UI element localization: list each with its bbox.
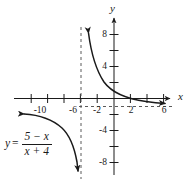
equation-denominator: x + 4 [22,144,52,158]
x-tick-label--2: -2 [89,106,105,116]
y-tick-label--4: -4 [93,126,107,136]
equation-equals: = [12,138,19,150]
x-tick-label--6: -6 [65,106,81,116]
x-tick-label--10: -10 [31,106,49,116]
y-axis [110,18,119,175]
y-axis-label: y [110,3,115,14]
equation-lhs: y [5,138,10,150]
equation-fraction: 5 − x x + 4 [22,131,52,157]
equation-numerator: 5 − x [22,131,52,144]
x-axis-label: x [178,91,183,102]
x-tick-label-6: 6 [158,106,170,116]
graph-figure: x y -10 -6 -2 2 6 8 4 -4 -8 y = 5 − x x … [0,0,188,180]
equation-label: y = 5 − x x + 4 [5,131,52,157]
y-tick-label-8: 8 [96,30,107,40]
y-tick-label--8: -8 [93,158,107,168]
x-tick-label-2: 2 [125,106,137,116]
y-tick-label-4: 4 [96,62,107,72]
